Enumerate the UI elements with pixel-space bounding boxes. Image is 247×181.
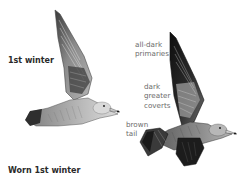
- illustration-plate: 1st winter: [0, 0, 247, 181]
- caption-worn-first-winter: Worn 1st winter: [8, 166, 80, 175]
- annotation-brown-tail: brown tail: [126, 120, 148, 139]
- annotation-all-dark-primaries: all-dark primaries: [135, 40, 169, 59]
- gull-first-winter-illustration: [22, 8, 122, 128]
- annotation-dark-greater-coverts: dark greater coverts: [144, 82, 171, 110]
